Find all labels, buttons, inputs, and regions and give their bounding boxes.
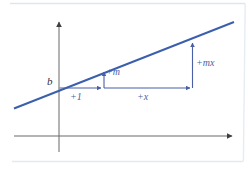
- rise-slope-label: +m: [106, 67, 120, 77]
- border-right: [243, 4, 245, 162]
- run-unit-label: +1: [70, 92, 82, 102]
- slope-intercept-figure: b +1 +m +x +mx: [0, 0, 249, 171]
- y-intercept-label: b: [47, 76, 53, 87]
- run-x-label: +x: [137, 92, 148, 102]
- diagram-canvas: [0, 0, 249, 171]
- rise-mx-label: +mx: [196, 58, 214, 68]
